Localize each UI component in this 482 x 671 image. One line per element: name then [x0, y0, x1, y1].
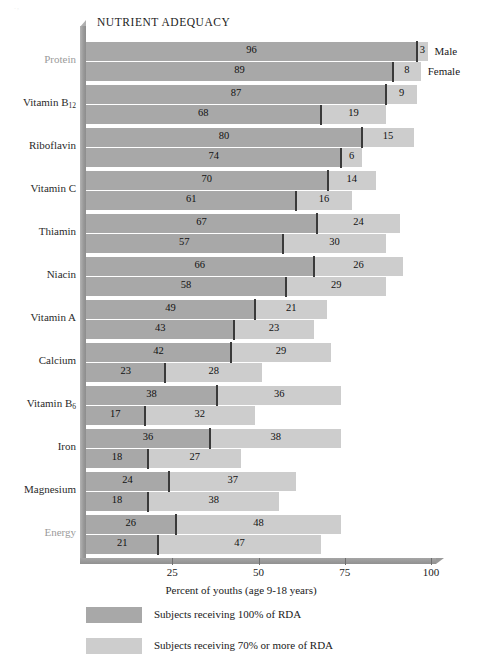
value-label-rda-70: 26	[353, 259, 364, 270]
bar-male: 3638	[86, 429, 341, 448]
category-label: Vitamin C	[31, 182, 76, 194]
x-tick	[259, 558, 260, 565]
segment-divider	[233, 320, 235, 340]
chart-row: Thiamin67245730	[0, 213, 482, 255]
segment-divider	[313, 256, 315, 277]
chart-row: Vitamin B638361732	[0, 385, 482, 427]
category-label: Iron	[58, 440, 76, 452]
value-label-rda-100: 24	[122, 474, 133, 485]
segment-divider	[147, 449, 149, 469]
segment-divider	[164, 363, 166, 383]
bar-male: 963	[86, 42, 428, 61]
value-label-rda-70: 32	[195, 408, 206, 419]
category-label: Riboflavin	[29, 139, 76, 151]
value-label-rda-100: 87	[231, 87, 242, 98]
x-tick	[172, 558, 173, 565]
legend-swatch	[86, 607, 142, 623]
value-label-rda-100: 70	[202, 173, 213, 184]
value-label-rda-100: 66	[195, 259, 206, 270]
value-label-rda-70: 48	[253, 517, 264, 528]
segment-divider	[216, 385, 218, 406]
value-label-rda-100: 67	[196, 216, 207, 227]
value-label-rda-100: 17	[110, 408, 121, 419]
bar-female: 1827	[86, 449, 241, 468]
value-label-rda-70: 6	[349, 150, 354, 161]
value-label-rda-100: 68	[198, 107, 209, 118]
value-label-rda-100: 36	[143, 431, 154, 442]
segment-divider	[175, 514, 177, 535]
value-label-rda-70: 9	[399, 87, 404, 98]
x-tick-label: 50	[253, 566, 264, 578]
bar-male: 2437	[86, 472, 296, 491]
bar-male: 3836	[86, 386, 341, 405]
scan-artifact: .,	[14, 2, 20, 11]
segment-divider	[416, 41, 418, 62]
x-tick-label: 75	[339, 566, 350, 578]
value-label-rda-70: 29	[331, 279, 342, 290]
x-tick	[345, 558, 346, 565]
bar-male: 2648	[86, 515, 341, 534]
chart-row: Riboflavin8015746	[0, 127, 482, 169]
value-label-rda-70: 14	[346, 173, 357, 184]
value-label-rda-70: 37	[227, 474, 238, 485]
series-annotation-male: Male	[435, 45, 458, 57]
x-tick-label: 100	[423, 566, 440, 578]
segment-divider	[385, 84, 387, 105]
value-label-rda-100: 49	[165, 302, 176, 313]
segment-divider	[295, 191, 297, 211]
value-label-rda-70: 36	[274, 388, 285, 399]
value-label-rda-70: 8	[404, 64, 409, 75]
value-label-rda-70: 3	[420, 44, 425, 55]
bar-male: 8015	[86, 128, 414, 147]
category-label: Vitamin B12	[23, 96, 76, 108]
value-label-rda-100: 38	[146, 388, 157, 399]
bar-female: 6819	[86, 105, 386, 124]
value-label-rda-100: 23	[120, 365, 131, 376]
category-label: Magnesium	[24, 483, 76, 495]
value-label-rda-70: 19	[348, 107, 359, 118]
legend-swatch	[86, 638, 142, 654]
category-label: Calcium	[39, 354, 76, 366]
segment-divider	[254, 299, 256, 320]
value-label-rda-70: 29	[276, 345, 287, 356]
bar-female: 1732	[86, 406, 255, 425]
value-label-rda-100: 89	[234, 64, 245, 75]
segment-divider	[392, 62, 394, 82]
segment-divider	[168, 471, 170, 492]
segment-divider	[327, 170, 329, 191]
legend-label: Subjects receiving 70% or more of RDA	[154, 639, 333, 651]
value-label-rda-100: 21	[117, 537, 128, 548]
bar-male: 6626	[86, 257, 403, 276]
value-label-rda-100: 96	[246, 44, 257, 55]
chart-title: NUTRIENT ADEQUACY	[97, 16, 230, 28]
chart-row: Vitamin A49214323	[0, 299, 482, 341]
segment-divider	[285, 277, 287, 297]
chart-row: Niacin66265829	[0, 256, 482, 298]
value-label-rda-70: 38	[271, 431, 282, 442]
segment-divider	[157, 535, 159, 555]
value-label-rda-100: 74	[208, 150, 219, 161]
value-label-rda-100: 18	[112, 494, 123, 505]
value-label-rda-70: 30	[329, 236, 340, 247]
chart-row: Magnesium24371838	[0, 471, 482, 513]
segment-divider	[209, 428, 211, 449]
chart-row: Vitamin C70146116	[0, 170, 482, 212]
bar-female: 6116	[86, 191, 352, 210]
x-tick-label: 25	[167, 566, 178, 578]
category-label: Vitamin A	[31, 311, 76, 323]
bar-male: 4921	[86, 300, 328, 319]
category-label: Energy	[44, 526, 76, 538]
value-label-rda-100: 61	[186, 193, 197, 204]
value-label-rda-70: 15	[383, 130, 394, 141]
segment-divider	[282, 234, 284, 254]
chart-row: Iron36381827	[0, 428, 482, 470]
category-label: Niacin	[47, 268, 76, 280]
legend-label: Subjects receiving 100% of RDA	[154, 608, 301, 620]
chart-row: Energy26482147	[0, 514, 482, 556]
value-label-rda-100: 18	[112, 451, 123, 462]
x-axis-arrow	[436, 558, 444, 564]
bar-female: 2147	[86, 535, 321, 554]
x-axis-label: Percent of youths (age 9-18 years)	[0, 584, 482, 596]
series-annotation-female: Female	[428, 65, 460, 77]
value-label-rda-100: 26	[126, 517, 137, 528]
